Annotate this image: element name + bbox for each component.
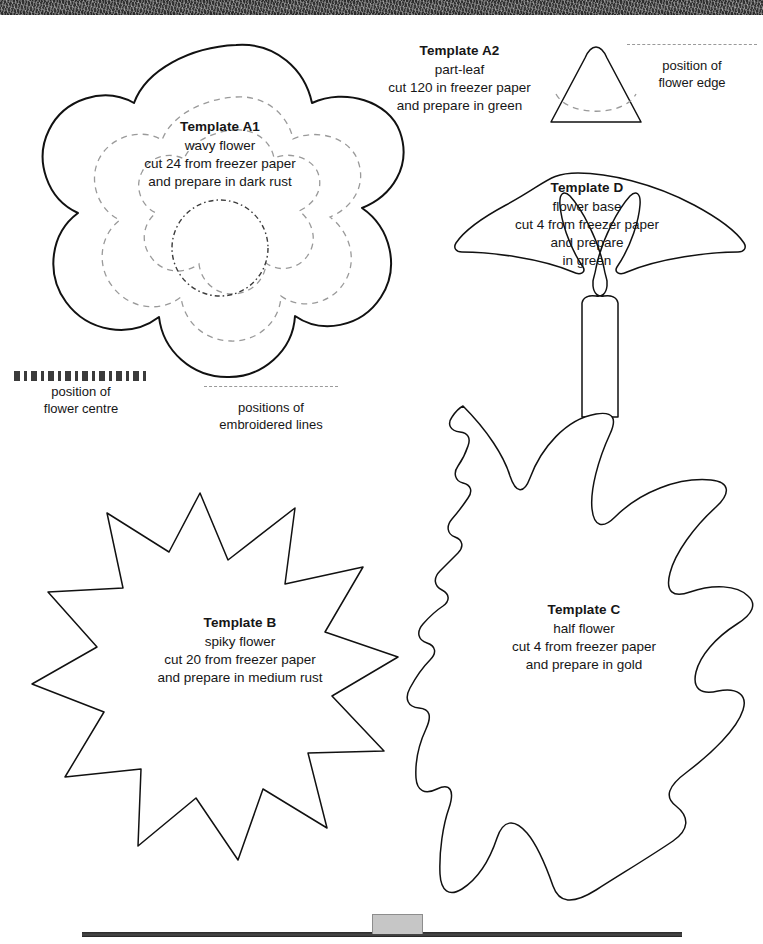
legend-flower-edge-line1: position of: [627, 58, 757, 75]
template-a1-line3: and prepare in dark rust: [108, 173, 332, 191]
template-a2-label: Template A2 part-leaf cut 120 in freezer…: [372, 42, 547, 115]
legend-embroidered-lines-line1: positions of: [204, 400, 338, 417]
template-a1-label: Template A1 wavy flower cut 24 from free…: [108, 118, 332, 191]
template-d-line1: flower base: [489, 198, 685, 216]
template-a2-line1: part-leaf: [372, 61, 547, 79]
template-a2-line2: cut 120 in freezer paper: [372, 79, 547, 97]
template-a1-line1: wavy flower: [108, 137, 332, 155]
template-b-line3: and prepare in medium rust: [114, 669, 366, 687]
legend-embroidered-lines: positions of embroidered lines: [204, 386, 338, 434]
template-b-line1: spiky flower: [114, 633, 366, 651]
dashed-line-swatch-icon: [627, 44, 757, 55]
legend-flower-centre: position of flower centre: [14, 371, 148, 418]
legend-flower-edge: position of flower edge: [627, 44, 757, 92]
legend-embroidered-lines-line2: embroidered lines: [204, 417, 338, 434]
template-c-title: Template C: [472, 601, 696, 619]
legend-flower-centre-line2: flower centre: [14, 401, 148, 418]
template-c-line2: cut 4 from freezer paper: [472, 638, 696, 656]
template-b-line2: cut 20 from freezer paper: [114, 651, 366, 669]
template-a1-shape: [43, 45, 404, 377]
legend-flower-centre-line1: position of: [14, 384, 148, 401]
template-d-line3: and prepare: [489, 234, 685, 252]
template-c-label: Template C half flower cut 4 from freeze…: [472, 601, 696, 674]
dash-dot-line-swatch-icon: [14, 371, 148, 381]
template-a1-title: Template A1: [108, 118, 332, 136]
template-a2-title: Template A2: [372, 42, 547, 60]
template-d-label: Template D flower base cut 4 from freeze…: [489, 179, 685, 270]
template-c-line1: half flower: [472, 620, 696, 638]
page-binding-tab: [372, 914, 423, 934]
template-c-line3: and prepare in gold: [472, 656, 696, 674]
template-sheet-page: Template A1 wavy flower cut 24 from free…: [0, 0, 763, 944]
template-d-line4: in green: [489, 252, 685, 270]
a1-outline: [43, 45, 404, 377]
template-d-title: Template D: [489, 179, 685, 197]
template-a2-line3: and prepare in green: [372, 97, 547, 115]
template-b-title: Template B: [114, 614, 366, 632]
dashed-line-swatch-icon-2: [204, 386, 338, 397]
legend-flower-edge-line2: flower edge: [627, 75, 757, 92]
template-d-line2: cut 4 from freezer paper: [489, 216, 685, 234]
template-a1-line2: cut 24 from freezer paper: [108, 155, 332, 173]
template-b-label: Template B spiky flower cut 20 from free…: [114, 614, 366, 687]
